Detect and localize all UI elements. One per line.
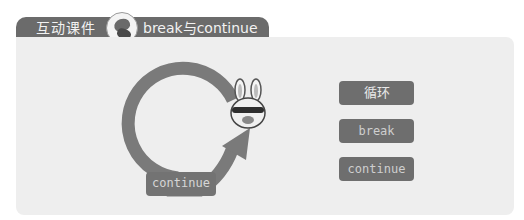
continue-loop-label: continue [146, 172, 216, 196]
continue-button[interactable]: continue [339, 157, 414, 181]
break-button[interactable]: break [339, 119, 414, 143]
loop-button[interactable]: 循环 [339, 81, 414, 105]
bunny-character-icon [228, 78, 268, 130]
